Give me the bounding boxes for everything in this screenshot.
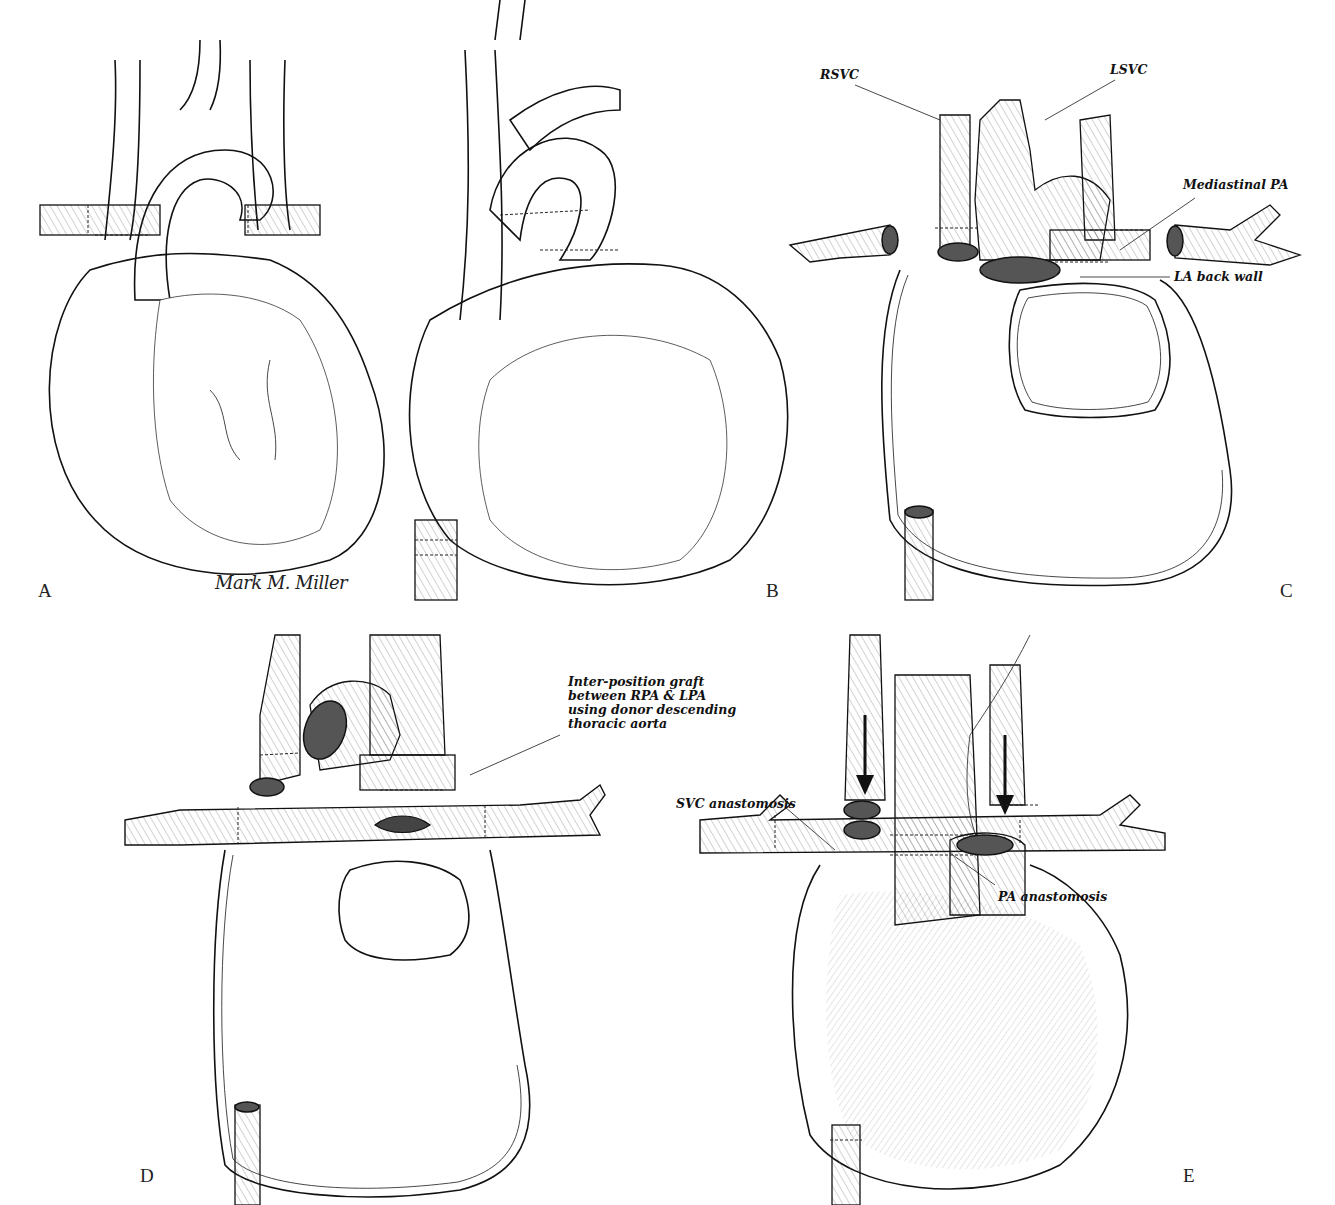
heart-illustration-a: [0, 0, 440, 600]
panel-c: RSVC LSVC Mediastinal PA LA back wall C: [780, 0, 1335, 600]
heart-illustration-b: [390, 0, 810, 600]
anastomosis-illustration-e: [680, 635, 1335, 1205]
panel-letter-d: D: [140, 1165, 154, 1187]
panel-letter-c: C: [1280, 580, 1293, 602]
label-pa-anastomosis: PA anastomosis: [998, 890, 1107, 904]
panel-a: Mark M. Miller A: [0, 0, 440, 600]
label-la-back-wall: LA back wall: [1174, 270, 1263, 284]
panel-letter-a: A: [38, 580, 52, 602]
panel-letter-e: E: [1183, 1165, 1195, 1187]
la-back-wall-illustration-c: [780, 0, 1335, 600]
panel-e: SVC anastomosis PA anastomosis E: [680, 635, 1335, 1205]
panel-d: Inter-position graft between RPA & LPA u…: [100, 635, 660, 1205]
label-lsvc: LSVC: [1110, 63, 1147, 77]
panel-b: B: [390, 0, 810, 600]
label-svc-anastomosis: SVC anastomosis: [676, 797, 796, 811]
artist-signature: Mark M. Miller: [215, 572, 347, 593]
label-rsvc: RSVC: [820, 68, 859, 82]
label-mediastinal-pa: Mediastinal PA: [1183, 178, 1288, 192]
panel-letter-b: B: [766, 580, 779, 602]
